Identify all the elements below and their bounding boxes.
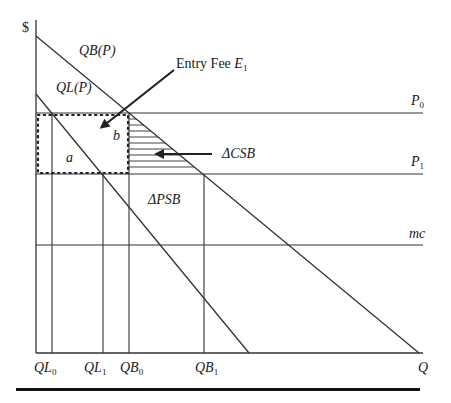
area-a-label: a bbox=[66, 151, 73, 165]
entry-fee-sub: 1 bbox=[243, 63, 248, 73]
delta-csb-hatch bbox=[129, 119, 194, 167]
ql0-label: QL0 bbox=[34, 361, 56, 375]
qb1-label: QB1 bbox=[195, 361, 218, 375]
ql-demand-curve bbox=[36, 94, 249, 353]
entry-fee-var: E bbox=[234, 56, 243, 71]
qb-curve-label: QB(P) bbox=[79, 44, 116, 58]
qb0-var: QB bbox=[120, 360, 139, 375]
entry-fee-arrow bbox=[102, 70, 174, 127]
p0-label: P0 bbox=[411, 94, 424, 108]
qb-demand-curve bbox=[36, 36, 419, 353]
ql1-label: QL1 bbox=[84, 361, 106, 375]
delta-psb-label: ΔPSB bbox=[148, 193, 180, 207]
area-b-label: b bbox=[113, 129, 120, 143]
ql0-var: QL bbox=[34, 360, 52, 375]
bottom-rule bbox=[16, 388, 420, 391]
ql0-sub: 0 bbox=[52, 367, 57, 377]
qb0-sub: 0 bbox=[139, 367, 144, 377]
p1-label: P1 bbox=[411, 155, 424, 169]
y-axis-label: $ bbox=[22, 21, 29, 35]
qb1-var: QB bbox=[195, 360, 214, 375]
x-axis-label: Q bbox=[418, 361, 428, 375]
entry-fee-text: Entry Fee bbox=[176, 56, 234, 71]
delta-csb-label: ΔCSB bbox=[222, 147, 255, 161]
p0-var: P bbox=[411, 93, 420, 108]
entry-fee-label: Entry Fee E1 bbox=[176, 57, 247, 71]
mc-label: mc bbox=[409, 227, 425, 241]
p1-sub: 1 bbox=[420, 161, 425, 171]
ql-curve-label: QL(P) bbox=[56, 81, 92, 95]
p1-var: P bbox=[411, 154, 420, 169]
p0-sub: 0 bbox=[420, 100, 425, 110]
ql1-var: QL bbox=[84, 360, 102, 375]
ql1-sub: 1 bbox=[102, 367, 107, 377]
qb0-label: QB0 bbox=[120, 361, 143, 375]
qb1-sub: 1 bbox=[214, 367, 219, 377]
